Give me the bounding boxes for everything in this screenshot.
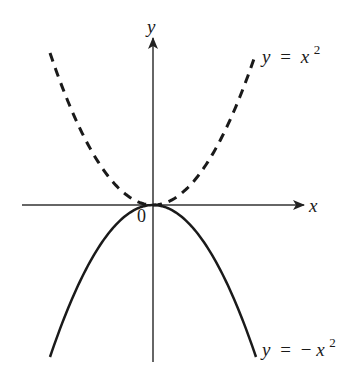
label-lower-lhs: y bbox=[260, 339, 271, 360]
svg-text:y = −: y = − x 2 bbox=[260, 335, 336, 360]
x-axis-label: x bbox=[308, 195, 318, 216]
y-axis-label: y bbox=[145, 16, 156, 37]
label-upper-eq: = bbox=[280, 46, 291, 67]
label-lower-curve: y = − x 2 bbox=[260, 335, 336, 360]
label-lower-sign: − bbox=[301, 339, 312, 360]
label-lower-base: x bbox=[315, 339, 325, 360]
origin-label: 0 bbox=[137, 206, 146, 226]
label-upper-exp: 2 bbox=[314, 42, 321, 57]
label-upper-base: x bbox=[300, 46, 310, 67]
label-upper-lhs: y bbox=[260, 46, 271, 67]
diagram-canvas: y x 0 y = x 2 y = − x 2 bbox=[0, 0, 346, 377]
label-upper-curve: y = x 2 bbox=[260, 42, 320, 67]
label-lower-exp: 2 bbox=[329, 335, 336, 350]
svg-text:y = x: y = x 2 bbox=[260, 42, 320, 67]
label-lower-eq: = bbox=[280, 339, 291, 360]
parabola-diagram: y x 0 y = x 2 y = − x 2 bbox=[0, 0, 346, 377]
